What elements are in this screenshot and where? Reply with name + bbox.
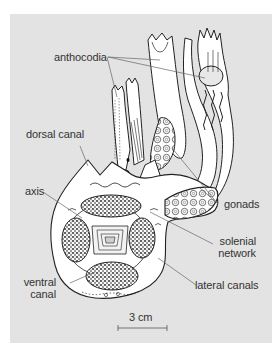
label-dorsal-canal: dorsal canal bbox=[26, 129, 84, 140]
label-ventral-canal: ventral canal bbox=[18, 277, 56, 300]
label-ventral-line1: ventral bbox=[18, 277, 56, 288]
label-axis: axis bbox=[25, 186, 44, 197]
label-solenial-network: solenial network bbox=[216, 236, 256, 259]
label-lateral-canals: lateral canals bbox=[195, 280, 258, 291]
scale-bar-label: 3 cm bbox=[129, 312, 152, 323]
label-solenial-line1: solenial bbox=[216, 236, 256, 247]
scale-bar bbox=[118, 325, 167, 331]
label-anthocodia: anthocodia bbox=[54, 52, 107, 63]
rachis-body bbox=[51, 160, 218, 298]
label-gonads: gonads bbox=[224, 199, 260, 210]
label-solenial-line2: network bbox=[216, 248, 256, 259]
label-ventral-line2: canal bbox=[18, 289, 56, 300]
